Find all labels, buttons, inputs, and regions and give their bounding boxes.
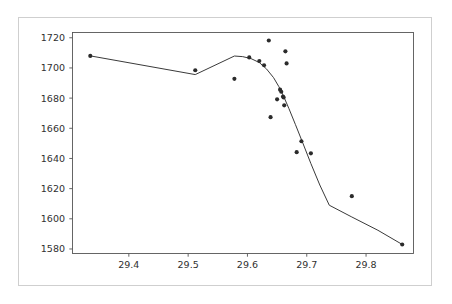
data-point	[309, 151, 313, 155]
data-point	[283, 49, 287, 53]
data-point	[282, 95, 286, 99]
x-tick-label: 29.6	[237, 259, 258, 270]
data-point	[247, 55, 251, 59]
x-tick-label: 29.4	[118, 259, 139, 270]
data-point	[285, 61, 289, 65]
data-point	[299, 139, 303, 143]
data-point	[193, 68, 197, 72]
y-axis-tick-marks	[69, 38, 72, 249]
y-axis-tick-labels: 15801600162016401660168017001720	[41, 32, 65, 254]
y-tick-label: 1680	[41, 93, 65, 104]
data-point	[262, 63, 266, 67]
data-point	[88, 54, 92, 58]
x-axis-tick-marks	[129, 254, 366, 257]
data-point	[295, 150, 299, 154]
y-tick-label: 1580	[41, 243, 65, 254]
data-point	[269, 115, 273, 119]
x-tick-label: 29.5	[178, 259, 199, 270]
figure-root: 15801600162016401660168017001720 29.429.…	[0, 0, 452, 304]
data-point	[400, 242, 404, 246]
data-point	[279, 90, 283, 94]
y-tick-label: 1600	[41, 213, 65, 224]
axes-frame	[73, 33, 414, 254]
data-point	[282, 103, 286, 107]
x-tick-label: 29.8	[355, 259, 376, 270]
y-tick-label: 1720	[41, 32, 65, 43]
data-point	[350, 194, 354, 198]
scatter-plot-canvas: 15801600162016401660168017001720 29.429.…	[0, 0, 452, 304]
trend-line-path	[90, 56, 402, 245]
y-tick-label: 1640	[41, 153, 65, 164]
y-tick-label: 1620	[41, 183, 65, 194]
x-tick-label: 29.7	[296, 259, 317, 270]
x-axis-tick-labels: 29.429.529.629.729.8	[118, 259, 376, 270]
data-point	[275, 97, 279, 101]
data-point	[232, 77, 236, 81]
y-tick-label: 1700	[41, 62, 65, 73]
data-point	[257, 59, 261, 63]
scatter-point-group	[88, 38, 404, 246]
y-tick-label: 1660	[41, 123, 65, 134]
data-point	[267, 38, 271, 42]
